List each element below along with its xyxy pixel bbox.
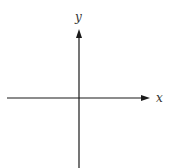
y-axis-arrow-icon — [76, 29, 82, 38]
x-axis: x — [7, 91, 163, 105]
x-axis-label: x — [156, 91, 163, 105]
coordinate-axes-diagram: x y — [0, 0, 171, 168]
y-axis-label: y — [74, 10, 82, 24]
y-axis: y — [74, 10, 82, 168]
x-axis-arrow-icon — [141, 95, 150, 101]
